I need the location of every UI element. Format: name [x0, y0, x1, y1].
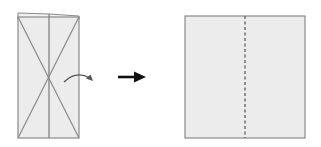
- before-paper: [18, 13, 79, 138]
- diagram-stage: [0, 0, 321, 147]
- origami-diagram: [0, 0, 321, 147]
- right-arrow-icon: [118, 72, 146, 83]
- after-paper: [185, 16, 305, 138]
